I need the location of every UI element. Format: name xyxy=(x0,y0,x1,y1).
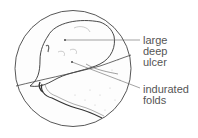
field-of-view-circle xyxy=(15,11,131,127)
endoscopic-view-illustration xyxy=(0,0,198,138)
folds-label: indurated folds xyxy=(143,84,189,106)
ulcer-label: large deep ulcer xyxy=(143,35,167,68)
ulcer-label-line-3: ulcer xyxy=(143,57,167,68)
folds-label-line-2: folds xyxy=(143,95,189,106)
